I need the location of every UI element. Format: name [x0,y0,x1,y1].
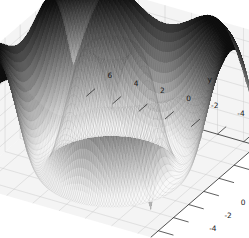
x-tick-label-2: -2 [224,212,231,219]
y-tick-label-5: 4 [134,80,139,87]
y-tick-label-2: -2 [211,103,218,110]
y-tick-label-4: 2 [160,87,165,94]
y-tick-label-1: -4 [237,110,244,117]
x-tick-label-3: 0 [241,199,246,206]
y-axis-label: y [207,77,212,85]
surface-plot-svg [0,0,249,238]
y-tick-label-6: 6 [107,72,112,79]
x-tick-label-1: -4 [209,225,216,232]
y-tick-label-3: 0 [186,95,191,102]
figure-canvas: -6-4-20246-6-4-202460.750.500.250.00-0.2… [0,0,249,238]
